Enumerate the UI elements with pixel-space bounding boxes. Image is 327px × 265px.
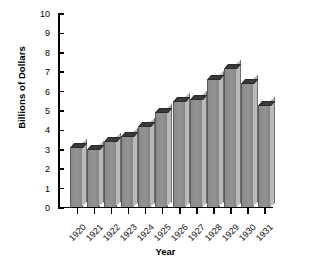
bar-front-face: [242, 84, 253, 206]
y-axis-tick-label: 2: [45, 165, 50, 174]
x-axis-tick: [77, 208, 79, 214]
bar-front-face: [105, 142, 116, 206]
y-axis-tick-label: 9: [45, 29, 50, 38]
y-axis-tick: [58, 188, 64, 190]
bar-front-face: [225, 69, 236, 207]
bar-1922: [104, 142, 117, 206]
plot-area: 0123456789101920192119221923192419251926…: [58, 14, 273, 208]
y-axis-title: Billions of Dollars: [16, 28, 27, 148]
bar-1931: [258, 106, 271, 207]
y-axis-tick-label: 0: [45, 204, 50, 213]
bar-front-face: [259, 106, 270, 207]
bar-front-face: [139, 127, 150, 207]
y-axis-tick-label: 3: [45, 145, 50, 154]
y-axis-tick: [58, 71, 64, 73]
bar-1929: [224, 69, 237, 207]
y-axis-tick-label: 1: [45, 184, 50, 193]
x-axis-tick: [230, 208, 232, 214]
x-axis-tick: [128, 208, 130, 214]
x-axis-tick: [196, 208, 198, 214]
bar-1923: [121, 137, 134, 207]
x-axis-tick: [94, 208, 96, 214]
y-axis-tick: [58, 13, 64, 15]
x-axis-tick: [213, 208, 215, 214]
bar-front-face: [71, 148, 82, 206]
y-axis-tick-label: 4: [45, 126, 50, 135]
y-axis-tick: [58, 149, 64, 151]
bar-1925: [155, 113, 168, 206]
x-axis-title: Year: [58, 246, 273, 257]
bar-1921: [87, 150, 100, 206]
x-axis-tick: [264, 208, 266, 214]
y-axis-tick: [58, 52, 64, 54]
bar-front-face: [88, 150, 99, 206]
y-axis-tick-label: 7: [45, 68, 50, 77]
y-axis-tick: [58, 110, 64, 112]
x-axis-tick: [162, 208, 164, 214]
bar-1930: [241, 84, 254, 206]
bar-front-face: [191, 100, 202, 207]
bar-1928: [207, 80, 220, 206]
x-axis-tick: [111, 208, 113, 214]
y-axis-tick-label: 10: [40, 10, 50, 19]
bar-side-face: [270, 96, 275, 206]
bar-chart: Billions of Dollars 01234567891019201921…: [0, 0, 327, 265]
x-axis-line: [58, 207, 273, 209]
y-axis-tick-label: 6: [45, 87, 50, 96]
x-axis-tick: [247, 208, 249, 214]
bar-front-face: [122, 137, 133, 207]
bar-1927: [190, 100, 203, 207]
y-axis-tick: [58, 130, 64, 132]
y-axis-tick-label: 8: [45, 48, 50, 57]
y-axis-tick: [58, 207, 64, 209]
bar-1926: [173, 102, 186, 207]
y-axis-tick: [58, 33, 64, 35]
x-axis-tick: [145, 208, 147, 214]
bar-front-face: [208, 80, 219, 206]
y-axis-tick: [58, 91, 64, 93]
bar-front-face: [174, 102, 185, 207]
bar-front-face: [156, 113, 167, 206]
bar-1920: [70, 148, 83, 206]
x-axis-tick: [179, 208, 181, 214]
y-axis-tick: [58, 168, 64, 170]
bar-1924: [138, 127, 151, 207]
y-axis-tick-label: 5: [45, 107, 50, 116]
